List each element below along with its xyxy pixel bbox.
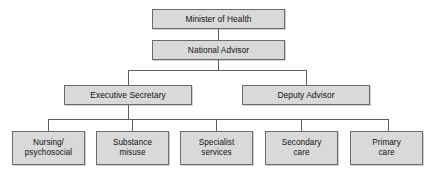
node-national-advisor[interactable]: National Advisor — [152, 40, 285, 60]
connector-executive-secretary-trunk — [128, 105, 129, 119]
connector-bus-to-executive-secretary — [128, 70, 129, 85]
node-specialist-services[interactable]: Specialist services — [180, 131, 253, 165]
connector-national-advisor-trunk — [218, 60, 219, 70]
node-primary-care[interactable]: Primary care — [350, 131, 423, 165]
connector-bus-to-deputy-advisor — [306, 70, 307, 85]
node-deputy-advisor[interactable]: Deputy Advisor — [242, 85, 370, 105]
node-secondary-care[interactable]: Secondary care — [265, 131, 338, 165]
node-executive-secretary[interactable]: Executive Secretary — [64, 85, 192, 105]
node-substance-misuse[interactable]: Substance misuse — [96, 131, 169, 165]
connector-tier4-bus — [48, 119, 388, 120]
connector-bus-to-substance-misuse — [132, 119, 133, 131]
connector-minister-to-national-advisor — [218, 29, 219, 40]
org-chart: Minister of Health National Advisor Exec… — [0, 0, 437, 172]
connector-bus-to-nursing-psychosocial — [48, 119, 49, 131]
node-minister-of-health[interactable]: Minister of Health — [152, 9, 285, 29]
connector-bus-to-primary-care — [388, 119, 389, 131]
connector-bus-to-secondary-care — [301, 119, 302, 131]
node-nursing-psychosocial[interactable]: Nursing/ psychosocial — [12, 131, 85, 165]
connector-tier3-bus — [128, 70, 307, 71]
connector-bus-to-specialist-services — [216, 119, 217, 131]
